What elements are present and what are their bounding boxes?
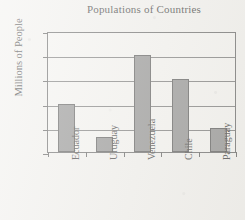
x-tick-mark — [199, 152, 200, 157]
x-tick-label: Paraguay — [221, 123, 232, 160]
x-tick-mark — [236, 152, 237, 157]
y-tick-mark — [43, 130, 48, 131]
y-tick-mark — [43, 33, 48, 34]
x-tick-mark — [124, 152, 125, 157]
x-tick-label: Uruguay — [108, 125, 119, 160]
x-tick-label: Chile — [183, 138, 194, 160]
chart-title: Populations of Countries — [45, 3, 243, 15]
x-tick-mark — [86, 152, 87, 157]
x-tick-label: Ecuador — [70, 127, 81, 160]
x-tick-mark — [161, 152, 162, 157]
x-tick-mark — [48, 152, 49, 157]
y-tick-mark — [43, 57, 48, 58]
y-tick-mark — [43, 106, 48, 107]
x-tick-label: Venezuela — [146, 119, 157, 160]
y-tick-mark — [43, 81, 48, 82]
bar-chart-figure: Populations of Countries Millions of Peo… — [0, 0, 245, 220]
y-axis-title: Millions of People — [13, 0, 24, 118]
